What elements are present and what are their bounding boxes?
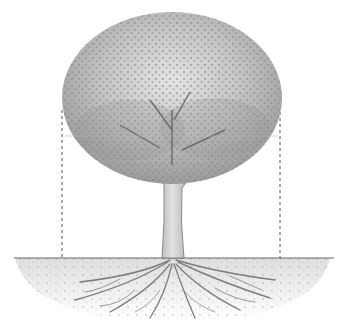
tree-drawing	[0, 0, 345, 329]
canopy	[62, 12, 282, 184]
tree-illustration: Pencil drawing of a tree showing canopy,…	[0, 0, 345, 329]
soil	[15, 258, 330, 320]
